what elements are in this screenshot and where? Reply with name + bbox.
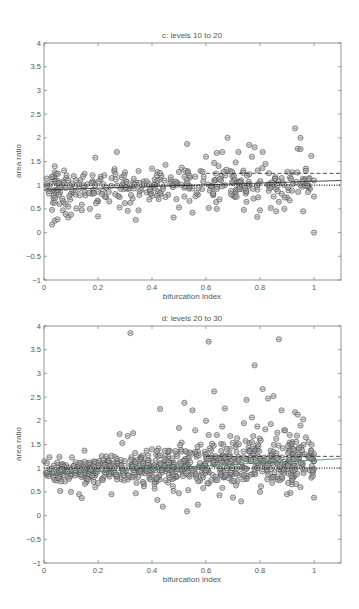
data-point: [122, 173, 127, 178]
data-point: [168, 175, 173, 180]
data-point: [131, 470, 136, 475]
data-point: [234, 449, 239, 454]
data-point: [251, 453, 256, 458]
data-point: [260, 386, 265, 391]
data-point: [289, 188, 294, 193]
data-point: [173, 449, 178, 454]
x-tick-label: 0.2: [93, 566, 103, 575]
data-point: [298, 147, 303, 152]
data-point: [244, 397, 249, 402]
y-tick-label: 3.5: [31, 62, 41, 71]
y-tick-label: 1: [37, 181, 41, 190]
x-tick-label: 0.4: [147, 566, 157, 575]
data-point: [195, 465, 200, 470]
data-point: [107, 474, 112, 479]
data-point: [274, 436, 279, 441]
data-point: [126, 473, 131, 478]
data-point: [239, 499, 244, 504]
data-point: [190, 210, 195, 215]
data-point: [287, 432, 292, 437]
data-point: [74, 206, 79, 211]
data-point: [257, 448, 262, 453]
data-point: [298, 423, 303, 428]
plot-d-x-axis-label: bifurcation index: [163, 575, 221, 584]
data-point: [252, 466, 257, 471]
data-point: [260, 149, 265, 154]
data-point: [249, 154, 254, 159]
y-tick-label: 1.5: [31, 157, 41, 166]
data-point: [118, 457, 123, 462]
y-tick-label: 3.5: [31, 345, 41, 354]
y-tick-label: 0.5: [31, 487, 41, 496]
x-tick-label: 0.8: [255, 566, 265, 575]
data-point: [158, 406, 163, 411]
data-point: [79, 208, 84, 213]
data-point: [124, 179, 129, 184]
data-point: [214, 186, 219, 191]
plot-c-points: [44, 126, 317, 235]
data-point: [220, 424, 225, 429]
data-point: [171, 215, 176, 220]
data-point: [96, 179, 101, 184]
data-point: [230, 440, 235, 445]
data-point: [311, 495, 316, 500]
data-point: [137, 189, 142, 194]
data-point: [236, 458, 241, 463]
data-point: [158, 461, 163, 466]
data-point: [114, 149, 119, 154]
data-point: [212, 178, 217, 183]
x-tick-label: 0.8: [255, 283, 265, 292]
data-point: [242, 185, 247, 190]
data-point: [85, 477, 90, 482]
data-point: [185, 141, 190, 146]
y-tick-label: 0: [37, 228, 41, 237]
y-tick-label: 1.5: [31, 440, 41, 449]
data-point: [219, 448, 224, 453]
data-point: [216, 163, 221, 168]
data-point: [206, 339, 211, 344]
data-point: [91, 190, 96, 195]
plot-c-y-axis-label: area ratio: [14, 144, 23, 178]
data-point: [228, 192, 233, 197]
data-point: [283, 428, 288, 433]
data-point: [128, 331, 133, 336]
data-point: [206, 432, 211, 437]
data-point: [184, 471, 189, 476]
data-point: [174, 196, 179, 201]
data-point: [268, 185, 273, 190]
data-point: [66, 204, 71, 209]
data-point: [157, 190, 162, 195]
data-point: [117, 205, 122, 210]
data-point: [286, 471, 291, 476]
data-point: [295, 471, 300, 476]
y-tick-label: 2: [37, 416, 41, 425]
data-point: [74, 178, 79, 183]
data-point: [205, 481, 210, 486]
data-point: [157, 453, 162, 458]
data-point: [220, 485, 225, 490]
data-point: [187, 198, 192, 203]
data-point: [50, 207, 55, 212]
data-point: [252, 145, 257, 150]
data-point: [77, 193, 82, 198]
data-point: [249, 440, 254, 445]
data-point: [131, 431, 136, 436]
x-tick-label: 1: [312, 283, 316, 292]
y-tick-label: 0.5: [31, 204, 41, 213]
data-point: [119, 463, 124, 468]
y-tick-label: 3: [37, 86, 41, 95]
y-tick-label: 4: [37, 39, 41, 48]
data-point: [175, 454, 180, 459]
data-point: [120, 468, 125, 473]
data-point: [225, 135, 230, 140]
data-point: [285, 443, 290, 448]
data-point: [311, 230, 316, 235]
data-point: [234, 194, 239, 199]
data-point: [113, 172, 118, 177]
plot-c-title: c: levels 10 to 20: [162, 31, 223, 40]
y-tick-label: 2.5: [31, 110, 41, 119]
data-point: [128, 192, 133, 197]
data-point: [56, 171, 61, 176]
data-point: [52, 164, 57, 169]
x-tick-label: 1: [312, 566, 316, 575]
